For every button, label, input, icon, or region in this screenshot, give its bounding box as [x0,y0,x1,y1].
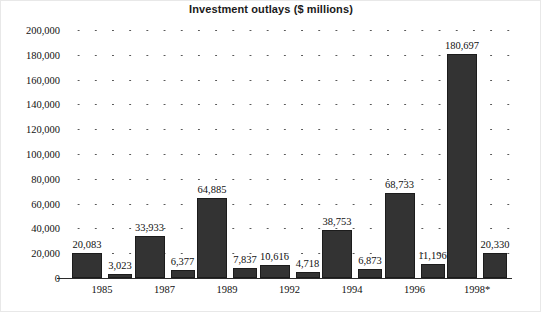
bar-value-label: 33,933 [135,222,164,233]
bar [358,269,382,278]
y-axis-tick-label: 60,000 [31,198,60,209]
plot-area: 020,00040,00060,00080,000100,000120,0001… [66,30,514,279]
bar-value-label: 10,616 [260,251,289,262]
y-axis-tick-label: 40,000 [31,223,60,234]
bar-value-label: 64,885 [198,184,227,195]
y-axis-tick-label: 140,000 [26,99,60,110]
x-axis-tick-label: 1998* [464,284,490,295]
x-axis-tick-label: 1987 [154,284,175,295]
bar [135,236,165,278]
y-axis-tick-label: 160,000 [26,74,60,85]
bar-value-label: 6,873 [358,255,382,266]
bar-value-label: 68,733 [385,179,414,190]
y-axis-tick-label: 20,000 [31,248,60,259]
bar [72,253,102,278]
bar [171,270,195,278]
y-axis-tick-label: 80,000 [31,173,60,184]
chart-page: Investment outlays ($ millions) 020,0004… [0,0,542,313]
y-axis-tick-label: 120,000 [26,124,60,135]
bar-value-label: 3,023 [108,260,132,271]
bar-value-label: 38,753 [323,216,352,227]
bar [421,264,445,278]
bar [260,265,290,278]
chart-title: Investment outlays ($ millions) [0,3,542,15]
bar [385,193,415,278]
bar-value-label: 7,837 [233,254,257,265]
bar [296,272,320,278]
x-axis-tick-label: 1996 [404,284,425,295]
bar-value-label: 20,330 [481,239,510,250]
bar-value-label: 6,377 [171,256,195,267]
bar [197,198,227,278]
bar-value-label: 4,718 [296,258,320,269]
bar [322,230,352,278]
y-axis-tick-label: 100,000 [26,149,60,160]
bar [447,54,477,278]
gridline [66,30,514,31]
bar [108,274,132,278]
x-axis-line [57,278,512,279]
bar-value-label: 11,196 [418,250,447,261]
y-axis-tick-label: 180,000 [26,49,60,60]
x-axis-tick-label: 1992 [279,284,300,295]
x-axis-tick-label: 1985 [92,284,113,295]
x-axis-tick-label: 1994 [342,284,363,295]
bar-value-label: 20,083 [73,239,102,250]
y-axis-tick-label: 200,000 [26,25,60,36]
bar [483,253,507,278]
bar-value-label: 180,697 [445,40,479,51]
bar [233,268,257,278]
x-axis-tick-label: 1989 [217,284,238,295]
